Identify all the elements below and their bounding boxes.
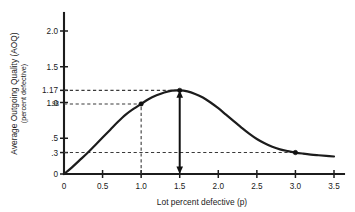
y-tick-label-.98: .98 [50,100,59,107]
y-tick-label-1.17: 1.17 [42,86,58,95]
x-tick-label-3.5: 3.5 [328,182,340,191]
chart-canvas: 2.01.51.171.0.98.5.30 00.51.01.52.02.53.… [0,0,355,212]
aoq-curve [64,90,334,174]
y-axis-title: Average Outgoing Quality (AOQ) [9,32,19,154]
aoq-curve-path [64,90,334,174]
y-tick-label-2.0: 2.0 [47,27,59,36]
aoql-double-arrow-head-bottom [176,167,183,175]
y-axis-subtitle: (percent defective) [19,64,28,124]
data-point-markers [139,88,298,155]
x-tick-label-2.5: 2.5 [251,182,263,191]
aoq-chart: 2.01.51.171.0.98.5.30 00.51.01.52.02.53.… [0,0,355,212]
x-tick-label-0: 0 [62,182,67,191]
x-tick-label-1.0: 1.0 [135,182,147,191]
marker-aoq-at-p-1.0 [139,102,143,106]
x-tick-label-1.5: 1.5 [174,182,186,191]
y-tick-label-1.5: 1.5 [47,63,59,72]
y-tick-label-0: 0 [53,170,58,179]
x-axis-title: Lot percent defective (p) [157,197,248,207]
x-tick-label-2.0: 2.0 [213,182,225,191]
y-tick-label-.5: .5 [51,134,58,143]
x-tick-label-0.5: 0.5 [97,182,109,191]
axis-titles: Lot percent defective (p) Average Outgoi… [9,32,247,207]
y-tick-label-.3: .3 [51,149,58,158]
annotations [176,90,183,174]
axes-group [64,13,344,174]
marker-aoql-peak [178,88,182,92]
marker-aoq-at-p-3.0 [293,150,297,154]
x-tick-label-3.0: 3.0 [290,182,302,191]
